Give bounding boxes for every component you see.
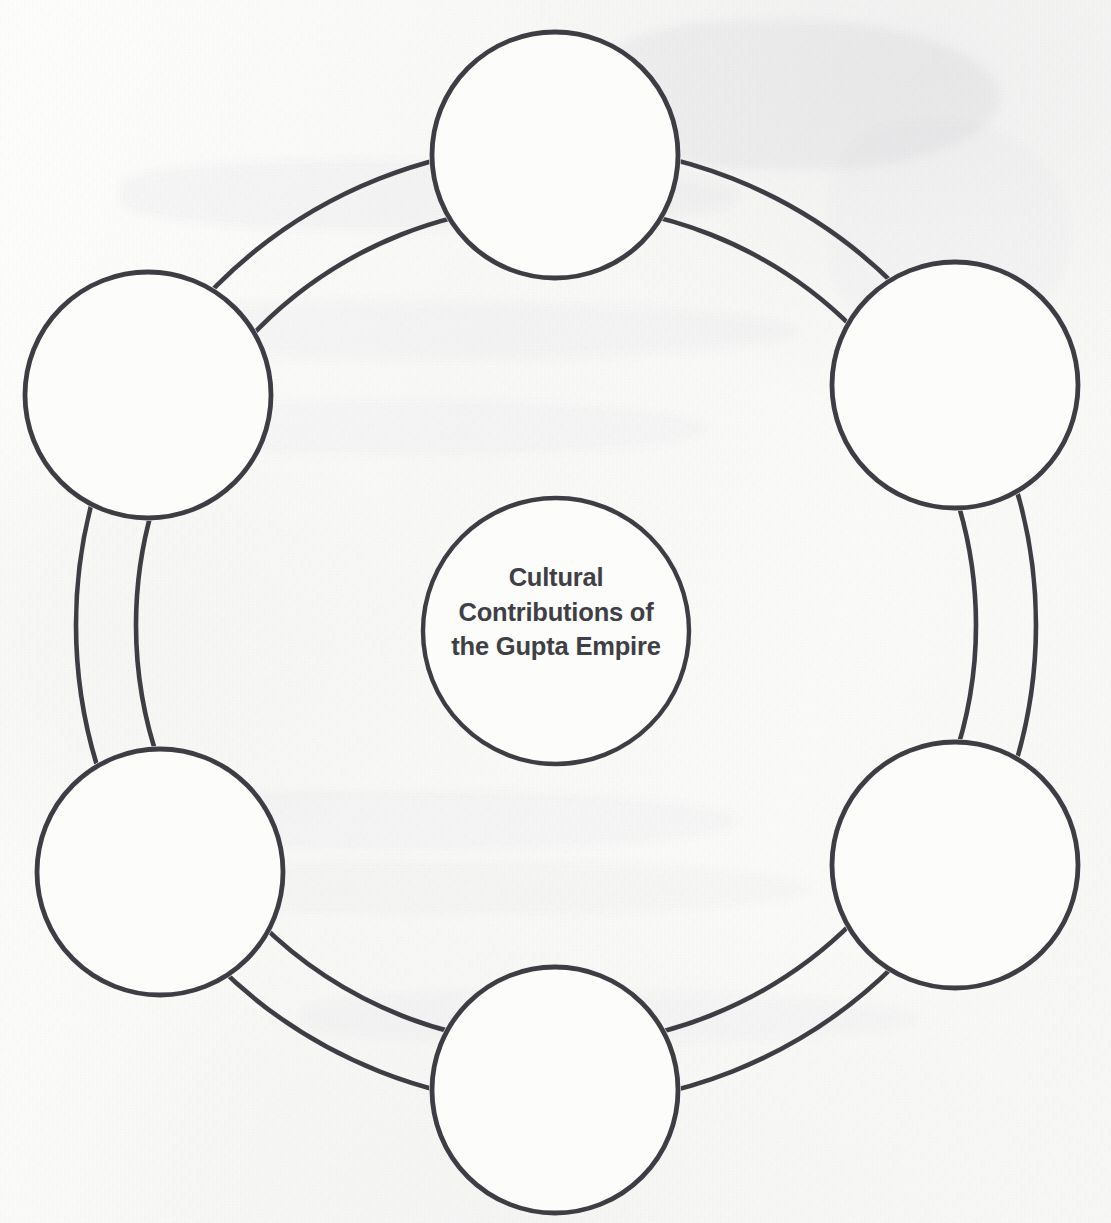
node-circle-lower-right[interactable] <box>832 742 1078 988</box>
center-circle[interactable] <box>423 498 689 764</box>
node-circle-upper-left[interactable] <box>25 272 271 518</box>
cycle-diagram <box>0 0 1111 1223</box>
node-circle-bottom[interactable] <box>432 967 678 1213</box>
worksheet-page: Cultural Contributions of the Gupta Empi… <box>0 0 1111 1223</box>
node-circle-upper-right[interactable] <box>832 262 1078 508</box>
node-circle-lower-left[interactable] <box>37 749 283 995</box>
node-circle-top[interactable] <box>432 32 678 278</box>
